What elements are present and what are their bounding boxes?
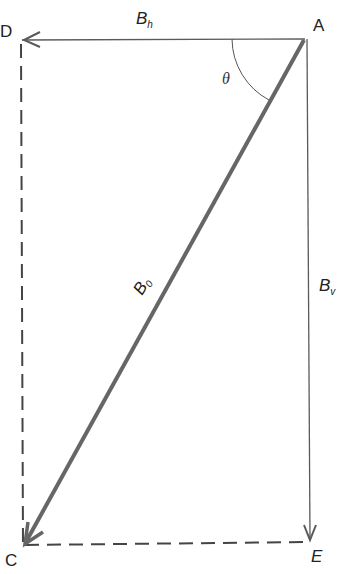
dashed-line-ce	[25, 542, 310, 545]
angle-arc	[232, 39, 269, 100]
total-vector-b0	[25, 40, 304, 544]
theta-label: θ	[222, 70, 230, 87]
bv-label: Bv	[319, 276, 336, 297]
dashed-line-dc	[21, 44, 23, 544]
point-c-label: C	[5, 551, 17, 570]
field-vector-diagram: D A C E Bh Bv B0 θ	[0, 0, 344, 574]
horizontal-vector-bh	[22, 32, 305, 47]
b0-label: B0	[129, 273, 155, 298]
point-e-label: E	[311, 547, 323, 566]
point-a-label: A	[313, 16, 325, 35]
bh-label: Bh	[136, 9, 153, 30]
point-d-label: D	[0, 22, 12, 41]
vertical-vector-bv	[304, 39, 316, 540]
